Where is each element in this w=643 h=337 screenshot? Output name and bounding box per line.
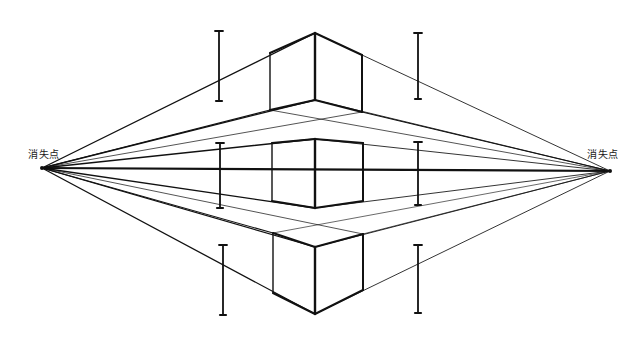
horizon-line xyxy=(42,168,610,171)
vanishing-point-label-right: 消失点 xyxy=(587,146,619,161)
cube-below-horizon-top-left-edge xyxy=(273,233,315,247)
cube-above-horizon-bottom-right-edge xyxy=(315,100,362,112)
construction-line-right xyxy=(315,139,610,171)
cube-on-horizon-top-left-edge xyxy=(272,139,315,143)
cube-on-horizon-top-right-edge xyxy=(315,139,363,143)
cube-below-horizon-top-right-edge xyxy=(315,234,363,247)
cube-on-horizon-bottom-right-edge xyxy=(315,201,363,208)
construction-line-left xyxy=(42,168,273,233)
perspective-drawing xyxy=(0,0,643,337)
vanishing-point-left xyxy=(40,166,44,170)
construction-line-left xyxy=(42,110,270,168)
construction-line-right xyxy=(362,112,610,171)
construction-lines xyxy=(42,33,610,314)
vanishing-point-right xyxy=(608,169,612,173)
cube-above-horizon-top-left-edge xyxy=(270,33,315,53)
construction-line-right xyxy=(363,171,610,234)
cube-below-horizon-bottom-left-edge xyxy=(273,293,315,314)
construction-line-left xyxy=(42,168,315,314)
measurement-bars xyxy=(215,31,422,315)
construction-line-left xyxy=(42,33,315,168)
vanishing-point-label-left: 消失点 xyxy=(28,146,60,161)
cube-edges xyxy=(270,33,363,314)
cube-on-horizon-bottom-left-edge xyxy=(272,201,315,208)
cube-above-horizon-bottom-left-edge xyxy=(270,100,315,110)
perspective-diagram: 消失点 消失点 xyxy=(0,0,643,337)
cube-above-horizon-top-right-edge xyxy=(315,33,362,55)
cube-below-horizon-bottom-right-edge xyxy=(315,290,363,314)
construction-line-right xyxy=(273,171,610,233)
